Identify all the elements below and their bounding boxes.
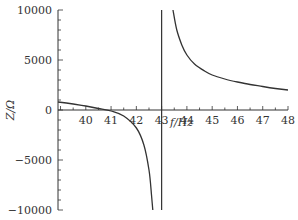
y-tick-label: 0 — [45, 104, 52, 117]
x-tick-label: 41 — [104, 114, 118, 127]
x-tick-label: 47 — [256, 114, 270, 127]
y-tick-label: −10000 — [8, 204, 52, 217]
impedance-curve — [173, 10, 288, 90]
impedance-chart: 1000050000−5000−10000404142434445464748 … — [0, 0, 298, 220]
x-tick-label: 42 — [129, 114, 143, 127]
axes — [58, 10, 288, 210]
x-tick-label: 40 — [79, 114, 93, 127]
y-axis-label: Z/Ω — [4, 100, 17, 121]
x-tick-label: 45 — [205, 114, 219, 127]
x-tick-label: 46 — [230, 114, 244, 127]
y-tick-label: 5000 — [24, 54, 52, 67]
x-tick-label: 48 — [281, 114, 295, 127]
y-tick-label: −5000 — [15, 154, 52, 167]
x-axis-label: f/Hz — [169, 116, 193, 129]
y-tick-label: 10000 — [17, 4, 52, 17]
